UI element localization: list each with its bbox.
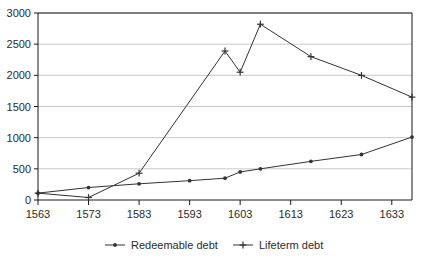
x-tick-label: 1613 (278, 208, 302, 220)
chart-legend: Redeemable debtLifeterm debt (105, 239, 323, 251)
chart-background (0, 0, 425, 261)
data-point-marker (360, 153, 364, 157)
data-point-marker (223, 176, 227, 180)
data-point-marker (188, 179, 192, 183)
y-tick-label: 0 (25, 194, 31, 206)
data-point-marker (87, 186, 91, 190)
y-tick-label: 1000 (7, 132, 31, 144)
data-point-marker (137, 182, 141, 186)
x-tick-label: 1593 (177, 208, 201, 220)
chart-canvas: 300025002000150010005000 156315731583159… (0, 0, 425, 261)
data-point-marker (113, 243, 117, 247)
y-tick-label: 2000 (7, 69, 31, 81)
y-tick-label: 1500 (7, 101, 31, 113)
legend-label: Redeemable debt (131, 239, 218, 251)
x-tick-label: 1573 (76, 208, 100, 220)
data-point-marker (258, 167, 262, 171)
data-point-marker (309, 159, 313, 163)
x-tick-label: 1603 (228, 208, 252, 220)
y-tick-label: 3000 (7, 7, 31, 19)
y-tick-label: 2500 (7, 38, 31, 50)
data-point-marker (410, 135, 414, 139)
y-tick-label: 500 (13, 163, 31, 175)
x-tick-label: 1633 (380, 208, 404, 220)
line-chart-figure: 300025002000150010005000 156315731583159… (0, 0, 425, 261)
x-tick-label: 1583 (127, 208, 151, 220)
x-tick-label: 1563 (26, 208, 50, 220)
legend-label: Lifeterm debt (259, 239, 323, 251)
data-point-marker (238, 170, 242, 174)
x-tick-label: 1623 (329, 208, 353, 220)
